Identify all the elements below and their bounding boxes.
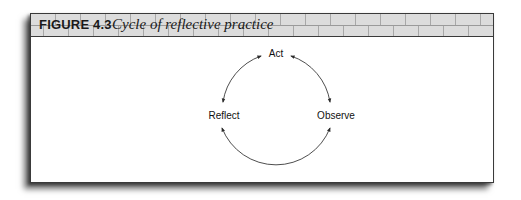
node-observe: Observe xyxy=(317,110,355,121)
arrow-act-observe xyxy=(291,56,330,102)
arrow-observe-reflect xyxy=(222,128,330,165)
cycle-arrows xyxy=(0,0,521,200)
arrow-reflect-act xyxy=(223,56,261,102)
node-act: Act xyxy=(269,48,283,59)
cycle-diagram: Act Observe Reflect xyxy=(0,0,521,200)
node-reflect: Reflect xyxy=(208,110,239,121)
